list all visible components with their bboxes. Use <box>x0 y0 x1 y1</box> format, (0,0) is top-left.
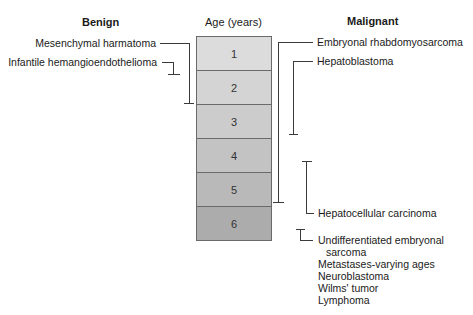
bracket-hepatoblastoma <box>289 62 313 135</box>
malignant-undifferentiated-embryonal: Undifferentiated embryonal <box>318 234 444 246</box>
malignant-hepatocellular-carcinoma: Hepatocellular carcinoma <box>318 207 436 219</box>
malignant-lymphoma: Lymphoma <box>318 294 370 306</box>
benign-infantile-hemangioendothelioma: Infantile hemangioendothelioma <box>8 56 157 68</box>
benign-mesenchymal-harmatoma: Mesenchymal harmatoma <box>35 37 156 49</box>
malignant-embryonal-rhabdomyosarcoma: Embryonal rhabdomyosarcoma <box>317 36 463 48</box>
bracket-infantile-hemangioendothelioma <box>162 63 180 75</box>
malignant-neuroblastoma: Neuroblastoma <box>318 270 389 282</box>
malignant-undifferentiated-sarcoma-line2: sarcoma <box>326 246 366 258</box>
bracket-hepatocellular-carcinoma <box>302 162 314 214</box>
malignant-hepatoblastoma: Hepatoblastoma <box>317 55 393 67</box>
bracket-undifferentiated-embryonal-sarcoma <box>296 230 313 241</box>
malignant-wilms-tumor: Wilms' tumor <box>318 282 378 294</box>
malignant-metastases: Metastases-varying ages <box>318 258 435 270</box>
bracket-mesenchymal-harmatoma <box>160 44 194 104</box>
